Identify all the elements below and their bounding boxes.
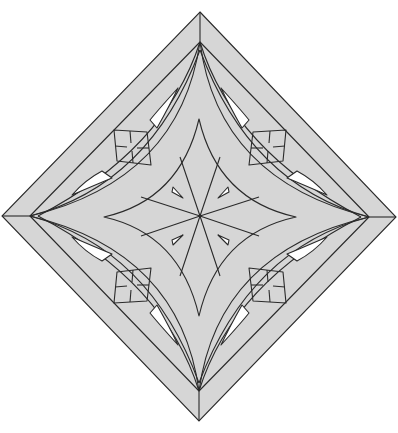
center-point	[199, 215, 202, 218]
quilt-diagram	[0, 0, 398, 433]
